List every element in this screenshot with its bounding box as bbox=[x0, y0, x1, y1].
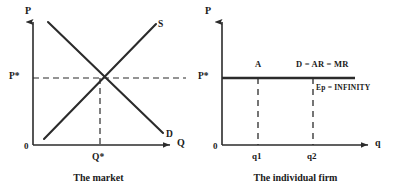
economics-figure-perfect-competition: P Q 0 S D P* Q* The market P q 0 P* A D … bbox=[0, 0, 394, 195]
market-chart-caption: The market bbox=[0, 172, 197, 183]
firm-chart-caption: The individual firm bbox=[197, 172, 394, 183]
firm-quantity-guides bbox=[258, 78, 313, 145]
market-x-axis-label: Q bbox=[177, 138, 185, 148]
market-supply-curve-label: S bbox=[158, 20, 163, 30]
firm-demand-curve-label: D = AR = MR bbox=[296, 60, 349, 69]
market-chart-axes bbox=[33, 22, 170, 145]
market-equilibrium-guides bbox=[33, 78, 186, 145]
firm-origin-label: 0 bbox=[213, 142, 218, 151]
firm-elasticity-label: Ep = INFINITY bbox=[316, 84, 370, 92]
firm-y-axis-label: P bbox=[205, 6, 211, 16]
firm-x-axis-label: q bbox=[375, 138, 381, 148]
market-demand-curve-label: D bbox=[166, 130, 173, 140]
figure-vector-layer bbox=[0, 0, 394, 195]
firm-q2-tick-label: q2 bbox=[307, 152, 317, 161]
market-origin-label: 0 bbox=[24, 142, 29, 151]
firm-q1-tick-label: q1 bbox=[252, 152, 262, 161]
market-equilibrium-quantity-label: Q* bbox=[92, 153, 104, 163]
firm-price-label: P* bbox=[198, 72, 209, 82]
firm-point-a-label: A bbox=[255, 60, 261, 69]
market-y-axis-label: P bbox=[25, 6, 31, 16]
market-equilibrium-price-label: P* bbox=[9, 72, 20, 82]
